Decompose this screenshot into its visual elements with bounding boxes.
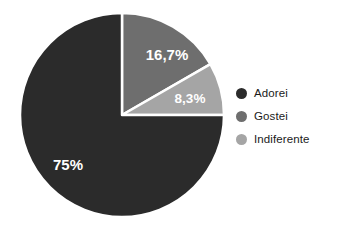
legend-label-adorei: Adorei bbox=[254, 87, 288, 99]
pie-slice-value-adorei: 75% bbox=[53, 156, 83, 173]
legend-swatch-icon-indiferente bbox=[236, 134, 247, 145]
legend-item-adorei[interactable]: Adorei bbox=[236, 82, 342, 104]
pie-slices-group bbox=[20, 13, 224, 217]
pie-slice-value-gostei: 16,7% bbox=[146, 46, 189, 63]
legend-swatch-icon-gostei bbox=[236, 111, 247, 122]
pie-slice-value-indiferente: 8,3% bbox=[175, 91, 206, 106]
legend-label-gostei: Gostei bbox=[254, 110, 288, 122]
legend-item-gostei[interactable]: Gostei bbox=[236, 105, 342, 127]
legend-label-indiferente: Indiferente bbox=[254, 133, 309, 145]
legend-item-indiferente[interactable]: Indiferente bbox=[236, 128, 342, 150]
chart-legend: Adorei Gostei Indiferente bbox=[236, 82, 342, 151]
legend-swatch-icon-adorei bbox=[236, 88, 247, 99]
pie-chart: 16,7%8,3%75% Adorei Gostei Indiferente bbox=[0, 0, 344, 234]
